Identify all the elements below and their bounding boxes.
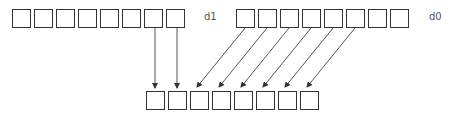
arrows-layer (0, 0, 452, 114)
arrow-d0-5 (307, 28, 355, 87)
arrow-d0-2 (241, 28, 289, 87)
arrow-d0-3 (263, 28, 311, 87)
arrow-d0-0 (197, 28, 245, 87)
arrow-d0-1 (219, 28, 267, 87)
arrow-d0-4 (285, 28, 333, 87)
